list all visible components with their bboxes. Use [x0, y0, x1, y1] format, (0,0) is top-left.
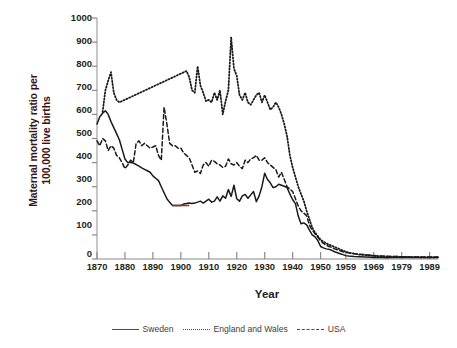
legend-label-sweden: Sweden	[143, 324, 174, 334]
data-series-layer	[97, 37, 438, 258]
y-tick-1000: 1000	[58, 13, 92, 23]
legend-line-dotted-icon	[183, 329, 210, 330]
y-tick-300: 300	[58, 174, 92, 184]
legend-item-sweden[interactable]: Sweden	[112, 324, 174, 334]
y-tick-200: 200	[58, 197, 92, 207]
axis-lines	[97, 18, 438, 259]
y-axis-title-line2: 100,000 live births	[39, 41, 52, 241]
y-tick-700: 700	[58, 82, 92, 92]
series-line-sweden	[97, 111, 438, 258]
y-tick-400: 400	[58, 151, 92, 161]
y-tick-800: 800	[58, 59, 92, 69]
legend-line-solid-icon	[112, 329, 139, 330]
x-tick-1989: 1989	[414, 262, 446, 273]
y-tick-900: 900	[58, 36, 92, 46]
y-tick-600: 600	[58, 105, 92, 115]
legend-item-england-and-wales[interactable]: England and Wales	[183, 324, 288, 334]
maternal-mortality-chart: Maternal mortality ratio per 100,000 liv…	[0, 0, 457, 348]
y-axis-title-line1: Maternal mortality ratio per	[27, 74, 39, 207]
y-axis-tick-labels: 1000 900 800 700 600 500 400 300 200 100…	[56, 0, 92, 348]
legend-label-usa: USA	[328, 324, 346, 334]
y-axis-title: Maternal mortality ratio per 100,000 liv…	[27, 41, 52, 241]
legend-label-england-and-wales: England and Wales	[214, 324, 288, 334]
y-tick-marks	[92, 18, 97, 259]
y-tick-500: 500	[58, 128, 92, 138]
x-axis-title: Year	[96, 288, 438, 300]
x-axis-tick-labels: 1870188018901900191019201930194019501959…	[0, 262, 457, 278]
series-line-usa	[97, 107, 438, 257]
legend-item-usa[interactable]: USA	[297, 324, 346, 334]
y-tick-0: 0	[58, 249, 92, 259]
legend-line-dashed-icon	[297, 329, 324, 330]
chart-legend: Sweden England and Wales USA	[0, 320, 457, 338]
y-tick-100: 100	[58, 220, 92, 230]
